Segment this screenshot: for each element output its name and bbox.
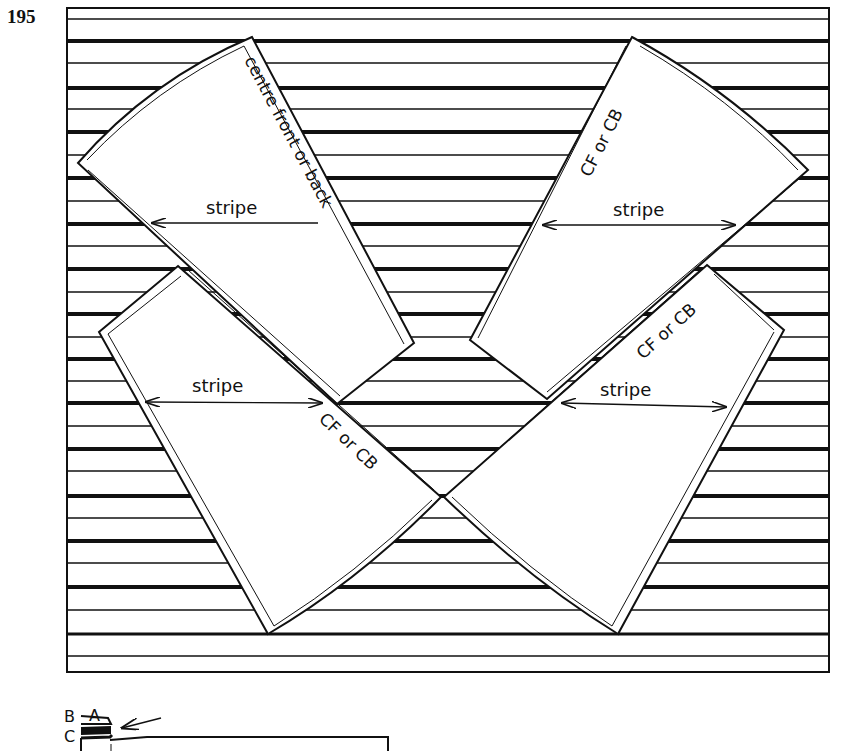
inset-diagram: A B C [64, 706, 388, 751]
grain-label: stripe [613, 199, 664, 220]
grain-label: stripe [206, 197, 257, 218]
inset-label-a: A [89, 706, 100, 725]
inset-arrow [122, 718, 161, 728]
striped-fabric-layout-diagram: stripe centre front or back stripe CF or… [0, 0, 841, 751]
inset-label-b: B [64, 707, 75, 726]
inset-label-c: C [64, 727, 75, 746]
grain-label: stripe [192, 375, 243, 396]
grain-label: stripe [600, 379, 651, 400]
